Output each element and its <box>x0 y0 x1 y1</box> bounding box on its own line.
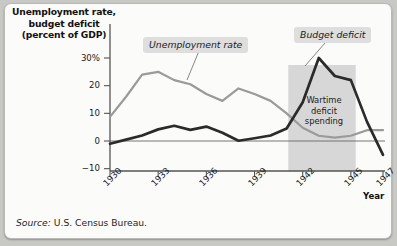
y-tick-label: 20 <box>74 80 100 90</box>
y-tick-label: 10 <box>74 108 100 118</box>
wartime-line-1: Wartime <box>293 95 355 106</box>
x-axis-title: Year <box>363 191 384 201</box>
x-axis-ticks <box>110 171 383 177</box>
y-tick-label: −10 <box>74 163 100 173</box>
wartime-line-3: spending <box>293 116 355 127</box>
wartime-line-2: deficit <box>293 106 355 117</box>
figure-container: Unemployment rate, budget deficit (perce… <box>0 0 397 246</box>
y-tick-label: 0 <box>74 136 100 146</box>
source-label: Source: <box>16 217 51 228</box>
wartime-deficit-spending-label: Wartime deficit spending <box>293 95 355 127</box>
source-text: U.S. Census Bureau. <box>54 217 147 228</box>
unemployment-rate-callout: Unemployment rate <box>143 37 248 53</box>
budget-deficit-callout: Budget deficit <box>294 27 371 43</box>
source-note: Source: U.S. Census Bureau. <box>16 217 147 228</box>
y-axis-ticks <box>104 58 110 169</box>
y-tick-label: 30% <box>74 53 100 63</box>
